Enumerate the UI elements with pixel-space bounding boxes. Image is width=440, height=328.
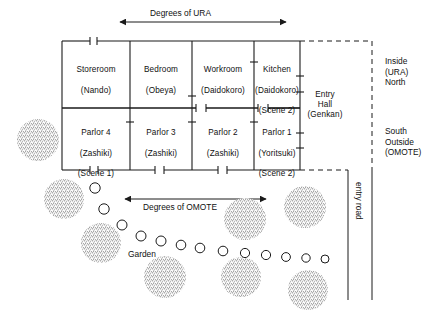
room-label-parlor-3: Parlor 3 (Zashiki): [131, 118, 191, 159]
stepping-stone: [218, 246, 228, 256]
entry-road-label: entry road: [354, 182, 364, 220]
omote-arrow-label: Degrees of OMOTE: [143, 202, 217, 212]
room-label-entry-hall: Entry Hall (Genkan): [302, 90, 348, 121]
stepping-stone: [240, 248, 249, 257]
garden-shrub: [81, 223, 121, 263]
room-label-storeroom: Storeroom (Nando): [64, 55, 128, 96]
stepping-stone: [117, 220, 127, 230]
stepping-stone: [195, 243, 205, 253]
stepping-stone: [282, 253, 291, 262]
stepping-stone: [261, 250, 270, 259]
room-label-parlor-2: Parlor 2 (Zashiki): [193, 118, 253, 159]
garden-shrub: [144, 256, 186, 298]
garden-label: Garden: [128, 249, 156, 259]
orientation-label-south: South Outside (OMOTE): [385, 126, 421, 158]
garden-shrub: [224, 198, 266, 240]
floor-plan-diagram: Storeroom (Nando) Bedroom (Obeya) Workro…: [0, 0, 440, 328]
orientation-label-north: Inside (URA) North: [385, 56, 408, 88]
stepping-stone: [156, 236, 166, 246]
garden-shrub: [221, 257, 261, 297]
garden-shrub: [17, 119, 59, 161]
stepping-stone: [90, 183, 100, 193]
stepping-stone: [99, 204, 109, 214]
room-label-workroom: Workroom (Daidokoro): [192, 55, 254, 96]
room-label-parlor-1: Parlor 1 (Yoritsuki) (Scene 2): [252, 118, 302, 179]
ura-arrow-label: Degrees of URA: [150, 8, 211, 18]
stepping-stone: [321, 255, 329, 263]
garden-shrub: [288, 270, 328, 310]
garden-shrub: [284, 186, 326, 228]
stepping-stone: [136, 231, 146, 241]
room-label-parlor-4: Parlor 4 (Zashiki) (Scene 1): [64, 118, 128, 179]
room-label-bedroom: Bedroom (Obeya): [131, 55, 191, 96]
stepping-stone: [176, 240, 186, 250]
room-label-kitchen: Kitchen (Daidokoro) (Scene 2): [252, 55, 302, 116]
stepping-stone: [302, 254, 310, 262]
garden-shrub: [44, 179, 84, 219]
